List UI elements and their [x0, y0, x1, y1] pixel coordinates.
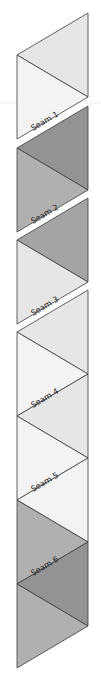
seam-diagram: Seam 1 Seam 2 Seam 3 Seam 4 Seam 5 Seam … [0, 0, 101, 681]
